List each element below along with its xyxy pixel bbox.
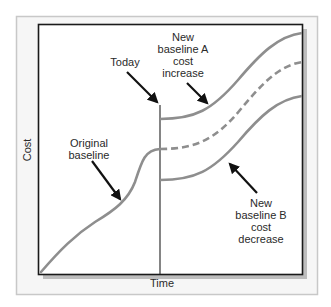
baseline-b-label-line1: New (250, 197, 272, 209)
today-label: Today (110, 56, 140, 68)
baseline-a-label-line2: baseline A (158, 43, 209, 55)
baseline-b-label-line2: baseline B (235, 209, 286, 221)
baseline-a-label-line3: cost (173, 55, 193, 67)
y-axis-label: Cost (21, 139, 33, 162)
baseline-a-label-line4: increase (162, 67, 204, 79)
baseline-b-label-line4: decrease (238, 233, 283, 245)
cost-baseline-diagram: Today Original baseline New baseline A c… (0, 0, 331, 307)
x-axis-label: Time (150, 277, 174, 289)
original-baseline-label-line1: Original (70, 137, 108, 149)
baseline-a-label-line1: New (172, 31, 194, 43)
original-baseline-label-line2: baseline (69, 149, 110, 161)
baseline-b-label-line3: cost (251, 221, 271, 233)
diagram-container: Today Original baseline New baseline A c… (0, 0, 331, 307)
